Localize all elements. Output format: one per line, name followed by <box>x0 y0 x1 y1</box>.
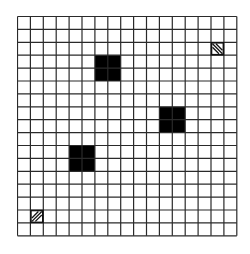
grid-cell[interactable] <box>121 55 134 68</box>
grid-cell[interactable] <box>121 158 134 171</box>
grid-cell[interactable] <box>185 223 198 236</box>
grid-cell[interactable] <box>159 133 172 146</box>
grid-cell[interactable] <box>108 146 121 159</box>
grid-cell[interactable] <box>30 42 43 55</box>
grid-cell[interactable] <box>211 171 224 184</box>
grid-cell[interactable] <box>134 29 147 42</box>
grid-cell[interactable] <box>30 120 43 133</box>
grid-cell[interactable] <box>69 197 82 210</box>
grid-cell[interactable] <box>82 120 95 133</box>
grid-cell[interactable] <box>224 146 237 159</box>
grid-cell[interactable] <box>185 158 198 171</box>
grid-cell[interactable] <box>198 107 211 120</box>
grid-cell[interactable] <box>185 184 198 197</box>
grid-cell[interactable] <box>108 107 121 120</box>
grid-cell[interactable] <box>172 146 185 159</box>
grid-cell[interactable] <box>134 42 147 55</box>
grid-cell[interactable] <box>82 171 95 184</box>
grid-cell[interactable] <box>69 120 82 133</box>
grid-cell[interactable] <box>185 81 198 94</box>
grid-cell[interactable] <box>121 223 134 236</box>
grid-cell[interactable] <box>159 171 172 184</box>
grid-cell[interactable] <box>56 42 69 55</box>
grid-cell[interactable] <box>159 146 172 159</box>
grid-cell[interactable] <box>108 81 121 94</box>
grid-cell[interactable] <box>121 184 134 197</box>
grid-cell[interactable] <box>108 223 121 236</box>
grid-cell[interactable] <box>172 94 185 107</box>
grid-cell[interactable] <box>30 68 43 81</box>
grid-cell[interactable] <box>224 171 237 184</box>
grid-cell[interactable] <box>82 184 95 197</box>
grid-cell[interactable] <box>224 197 237 210</box>
grid-cell[interactable] <box>30 197 43 210</box>
grid-cell[interactable] <box>211 146 224 159</box>
grid-cell[interactable] <box>18 29 31 42</box>
grid-cell[interactable] <box>211 133 224 146</box>
grid-cell[interactable] <box>159 197 172 210</box>
grid-cell[interactable] <box>121 94 134 107</box>
grid-cell[interactable] <box>69 29 82 42</box>
grid-cell[interactable] <box>69 223 82 236</box>
grid-cell[interactable] <box>82 107 95 120</box>
grid-cell[interactable] <box>172 158 185 171</box>
grid-cell[interactable] <box>18 42 31 55</box>
grid-cell[interactable] <box>159 210 172 223</box>
grid-cell[interactable] <box>69 17 82 30</box>
grid-cell[interactable] <box>224 42 237 55</box>
grid-cell[interactable] <box>134 197 147 210</box>
grid-cell[interactable] <box>134 158 147 171</box>
grid-cell[interactable] <box>95 42 108 55</box>
grid-cell[interactable] <box>224 120 237 133</box>
grid-cell[interactable] <box>224 68 237 81</box>
grid-cell[interactable] <box>185 42 198 55</box>
grid-cell[interactable] <box>108 197 121 210</box>
grid-cell[interactable] <box>95 158 108 171</box>
grid-cell[interactable] <box>43 81 56 94</box>
grid-cell[interactable] <box>159 184 172 197</box>
grid-cell[interactable] <box>82 223 95 236</box>
grid-cell[interactable] <box>224 210 237 223</box>
grid-cell[interactable] <box>198 197 211 210</box>
grid-cell[interactable] <box>172 210 185 223</box>
grid-cell[interactable] <box>211 81 224 94</box>
grid-cell[interactable] <box>147 146 160 159</box>
grid-cell[interactable] <box>185 107 198 120</box>
grid-cell[interactable] <box>30 107 43 120</box>
grid-cell[interactable] <box>95 171 108 184</box>
grid-cell[interactable] <box>43 158 56 171</box>
grid-cell[interactable] <box>198 81 211 94</box>
grid-cell[interactable] <box>147 210 160 223</box>
grid-cell[interactable] <box>56 107 69 120</box>
grid-cell[interactable] <box>108 158 121 171</box>
grid-cell[interactable] <box>43 42 56 55</box>
grid-cell[interactable] <box>134 81 147 94</box>
grid-cell[interactable] <box>18 133 31 146</box>
grid-cell[interactable] <box>95 81 108 94</box>
grid-cell[interactable] <box>69 107 82 120</box>
grid-cell[interactable] <box>211 210 224 223</box>
grid-cell[interactable] <box>211 197 224 210</box>
grid-cell[interactable] <box>18 107 31 120</box>
grid-cell[interactable] <box>30 133 43 146</box>
grid-cell[interactable] <box>18 55 31 68</box>
grid-cell[interactable] <box>198 146 211 159</box>
grid-cell[interactable] <box>95 94 108 107</box>
grid-cell[interactable] <box>211 158 224 171</box>
grid-cell[interactable] <box>185 94 198 107</box>
grid-cell[interactable] <box>56 68 69 81</box>
grid-cell[interactable] <box>82 197 95 210</box>
grid-cell[interactable] <box>30 184 43 197</box>
grid-cell[interactable] <box>198 68 211 81</box>
grid-cell[interactable] <box>172 184 185 197</box>
grid-cell[interactable] <box>172 29 185 42</box>
grid-cell[interactable] <box>172 55 185 68</box>
grid-cell[interactable] <box>147 81 160 94</box>
grid-cell[interactable] <box>121 197 134 210</box>
grid-cell[interactable] <box>82 81 95 94</box>
grid-cell[interactable] <box>18 171 31 184</box>
grid-cell[interactable] <box>30 81 43 94</box>
grid-cell[interactable] <box>198 55 211 68</box>
grid-cell[interactable] <box>147 107 160 120</box>
grid-cell[interactable] <box>172 171 185 184</box>
